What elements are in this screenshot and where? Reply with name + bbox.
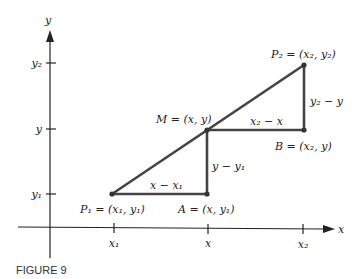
label-y-minus-y1: y − y₁: [211, 160, 245, 173]
label-m: M = (x, y): [155, 113, 211, 126]
x-tick-label-x2: x₂: [298, 238, 309, 251]
x-axis: [18, 227, 325, 229]
y-tick-label-y1: y₁: [30, 188, 42, 201]
y-axis-label: y: [44, 14, 52, 27]
label-p2: P₂ = (x₂, y₂): [270, 48, 336, 61]
y-tick-label-y2: y₂: [30, 57, 42, 70]
x-axis-label: x: [338, 223, 345, 236]
x-axis-arrow: [323, 225, 335, 233]
y-tick-label-y: y: [35, 123, 43, 136]
y-axis-arrow: [46, 30, 54, 42]
label-b: B = (x₂, y): [274, 140, 332, 153]
label-a: A = (x, y₁): [177, 203, 235, 216]
label-x2-minus-x: x₂ − x: [250, 115, 284, 128]
point-p1: [109, 191, 114, 196]
label-x-minus-x1: x − x₁: [150, 179, 183, 192]
x-tick-label-x1: x₁: [109, 237, 120, 250]
point-b: [301, 127, 306, 132]
x-tick-label-x: x: [205, 237, 212, 250]
midpoint-diagram: y x y₂ y y₁ x₁ x x₂ P₁ = (x₁, y₁) A = (x…: [0, 0, 360, 279]
figure-caption: FIGURE 9: [16, 264, 67, 276]
label-y2-minus-y: y₂ − y: [309, 95, 344, 108]
label-p1: P₁ = (x₁, y₁): [79, 203, 145, 216]
point-a: [204, 191, 209, 196]
point-p2: [301, 62, 306, 67]
point-m: [204, 127, 209, 132]
